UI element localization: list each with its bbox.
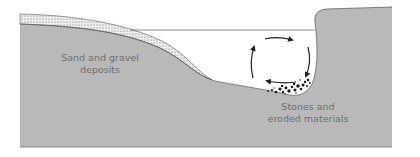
deposit-label-line2: deposits (80, 64, 120, 75)
erosion-label-line1: Stones and (281, 101, 334, 112)
deposit-label-line1: Sand and gravel (61, 52, 139, 63)
river-cross-section-diagram: Sand and gravel deposits Stones and erod… (0, 0, 420, 157)
erosion-label-line2: eroded materials (268, 113, 349, 124)
